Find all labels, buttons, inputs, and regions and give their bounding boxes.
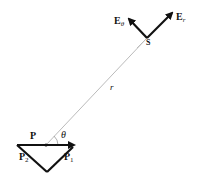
label-p: P bbox=[30, 131, 36, 141]
e-theta-vector bbox=[129, 19, 147, 38]
e-theta-symbol: E bbox=[114, 15, 121, 26]
p2-subscript: 2 bbox=[25, 156, 29, 164]
label-r: r bbox=[110, 83, 114, 92]
e-r-symbol: E bbox=[176, 11, 183, 22]
label-e-theta: Eθ bbox=[114, 16, 124, 26]
e-r-vector bbox=[147, 13, 172, 38]
p1-subscript: 1 bbox=[70, 156, 74, 164]
label-s: S bbox=[146, 39, 150, 47]
label-p2: P2 bbox=[19, 152, 29, 162]
e-r-subscript: r bbox=[183, 16, 186, 24]
theta-arc bbox=[54, 136, 58, 145]
origin-point bbox=[45, 144, 48, 147]
label-p1: P1 bbox=[64, 152, 74, 162]
label-theta: θ bbox=[61, 130, 66, 140]
vector-diagram bbox=[0, 0, 197, 177]
label-e-r: Er bbox=[176, 12, 185, 22]
e-theta-subscript: θ bbox=[121, 20, 124, 28]
theta-symbol: θ bbox=[61, 129, 66, 140]
